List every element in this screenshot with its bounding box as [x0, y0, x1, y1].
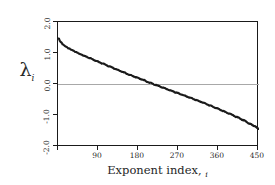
xtick-mark-360: [217, 146, 218, 150]
xtick-mark-270: [177, 146, 178, 150]
y-axis-label-subscript: i: [32, 73, 35, 83]
xtick-mark-0: [57, 146, 58, 150]
x-axis-title-main: Exponent index,: [107, 163, 201, 177]
xtick-mark-180: [137, 146, 138, 150]
xtick-mark-90: [97, 146, 98, 150]
xtick-mark-450: [257, 146, 258, 150]
plot-area: [57, 21, 258, 146]
x-axis-title: Exponent index, i: [57, 163, 258, 179]
xtick-label-90: 90: [82, 151, 112, 160]
ytick-label-2: 2.0: [43, 9, 52, 39]
ytick-label-neg2: -2.0: [42, 133, 51, 163]
y-axis-label-symbol: λ: [20, 58, 32, 80]
xtick-label-450: 450: [242, 151, 272, 160]
xtick-label-270: 270: [162, 151, 192, 160]
plot-svg: [58, 22, 259, 147]
figure-root: λi 2.0 1.0 0.0 -1.0 -2.0 90 180 270 360 …: [0, 0, 275, 185]
x-axis-title-subscript: i: [205, 170, 208, 179]
xtick-label-180: 180: [122, 151, 152, 160]
data-series-curve: [58, 39, 259, 130]
y-axis-label: λi: [10, 60, 44, 83]
ytick-label-neg1: -1.0: [42, 102, 51, 132]
xtick-label-360: 360: [202, 151, 232, 160]
ytick-label-1: 1.0: [43, 40, 52, 70]
ytick-label-0: 0.0: [43, 71, 52, 101]
